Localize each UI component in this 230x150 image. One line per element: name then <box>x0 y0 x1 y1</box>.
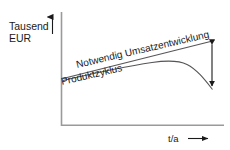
x-axis-label: t/a <box>168 133 179 144</box>
diagram-canvas: Tausend EUR Notwendig Umsatzentwicklung … <box>0 0 230 150</box>
y-axis-label-line2: EUR <box>9 32 32 44</box>
y-axis-label-line1: Tausend <box>9 20 49 32</box>
product-cycle-diagram: Tausend EUR Notwendig Umsatzentwicklung … <box>0 0 230 150</box>
